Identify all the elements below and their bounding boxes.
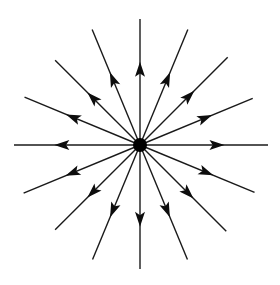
center-point-group bbox=[133, 138, 147, 152]
field-center-point bbox=[133, 138, 147, 152]
vector-field-canvas bbox=[0, 0, 280, 285]
radial-field-figure bbox=[0, 0, 280, 285]
